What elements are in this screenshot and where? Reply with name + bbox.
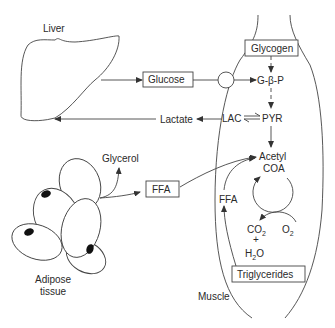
ffa-muscle-to-acetyl-arrow [224, 158, 255, 190]
ffa-label: FFA [152, 184, 171, 195]
ffa-muscle-label: FFA [219, 194, 238, 205]
adipose-label-line2: tissue [40, 286, 67, 297]
glycogen-label: Glycogen [251, 43, 293, 54]
adipose-to-ffa-arrow [100, 192, 140, 198]
triglycerides-to-ffa-arrow [224, 206, 236, 266]
adipose-label-line1: Adipose [35, 274, 72, 285]
liver-shape [21, 36, 119, 121]
liver-label: Liver [43, 23, 65, 34]
g6p-label: G-β-P [257, 75, 284, 86]
lac-label: LAC [222, 113, 241, 124]
adipose-to-glycerol-arrow [100, 168, 119, 198]
muscle-label: Muscle [198, 291, 230, 302]
ffa-to-acetyl-arrow [180, 157, 256, 187]
tca-cycle-arrow [253, 177, 293, 212]
metabolism-diagram: Liver Muscle Glycogen Glucose G-β-P LAC … [0, 0, 335, 328]
triglycerides-label: Triglycerides [237, 269, 293, 280]
pyr-label: PYR [262, 113, 283, 124]
glycerol-label: Glycerol [102, 153, 139, 164]
adipose-cells [7, 153, 112, 281]
equilibrium-forward [244, 113, 260, 116]
coa-label: COA [263, 163, 285, 174]
h2o-label: H2O [245, 248, 264, 261]
glucose-label: Glucose [148, 74, 185, 85]
o2-label: O2 [282, 224, 294, 237]
lactate-label: Lactate [160, 114, 193, 125]
acetyl-label: Acetyl [259, 151, 286, 162]
oxygen-to-co2-arrow [260, 212, 296, 222]
transporter-circle [218, 72, 234, 88]
equilibrium-back [244, 119, 260, 122]
plus-label: + [253, 234, 259, 245]
